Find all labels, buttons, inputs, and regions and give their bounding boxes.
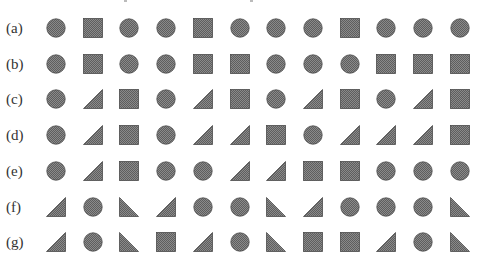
square-shape	[413, 54, 433, 74]
triangle-right-shape	[376, 232, 396, 252]
circle-shape	[156, 89, 176, 109]
square-shape	[450, 89, 470, 109]
circle-shape	[340, 197, 360, 217]
square-shape	[450, 54, 470, 74]
square-shape	[450, 125, 470, 145]
shape-sequence-figure: (a)(b)(c)(d)(e)(f)(g)	[0, 0, 483, 257]
triangle-right-shape	[230, 125, 250, 145]
triangle-right-shape	[413, 125, 433, 145]
triangle-right-shape	[46, 197, 66, 217]
triangle-right-shape	[193, 89, 213, 109]
circle-shape	[230, 18, 250, 38]
triangle-left-shape	[450, 232, 470, 252]
square-shape	[230, 89, 250, 109]
row-label: (a)	[6, 19, 32, 37]
circle-shape	[266, 54, 286, 74]
triangle-right-shape	[376, 125, 396, 145]
row-label: (d)	[6, 126, 32, 144]
circle-shape	[193, 197, 213, 217]
circle-shape	[303, 54, 323, 74]
triangle-right-shape	[193, 125, 213, 145]
square-shape	[83, 54, 103, 74]
triangle-left-shape	[450, 197, 470, 217]
triangle-right-shape	[156, 197, 176, 217]
row-label: (c)	[6, 90, 32, 108]
triangle-right-shape	[266, 161, 286, 181]
circle-shape	[266, 18, 286, 38]
circle-shape	[46, 54, 66, 74]
square-shape	[376, 54, 396, 74]
circle-shape	[156, 18, 176, 38]
circle-shape	[376, 18, 396, 38]
circle-shape	[46, 125, 66, 145]
circle-shape	[376, 161, 396, 181]
circle-shape	[413, 18, 433, 38]
triangle-right-shape	[303, 197, 323, 217]
circle-shape	[376, 197, 396, 217]
circle-shape	[266, 89, 286, 109]
triangle-right-shape	[413, 89, 433, 109]
triangle-right-shape	[83, 89, 103, 109]
circle-shape	[156, 54, 176, 74]
square-shape	[119, 161, 139, 181]
triangle-right-shape	[83, 125, 103, 145]
square-shape	[119, 89, 139, 109]
row-label: (b)	[6, 55, 32, 73]
circle-shape	[340, 54, 360, 74]
circle-shape	[376, 89, 396, 109]
circle-shape	[230, 197, 250, 217]
triangle-left-shape	[266, 197, 286, 217]
square-shape	[303, 232, 323, 252]
triangle-left-shape	[119, 232, 139, 252]
circle-shape	[303, 125, 323, 145]
circle-shape	[46, 89, 66, 109]
square-shape	[340, 232, 360, 252]
circle-shape	[119, 54, 139, 74]
triangle-right-shape	[193, 232, 213, 252]
circle-shape	[413, 232, 433, 252]
cropped-text-remnant	[124, 0, 127, 2]
square-shape	[230, 54, 250, 74]
row-label: (g)	[6, 233, 32, 251]
cropped-text-remnant	[250, 0, 253, 2]
triangle-left-shape	[266, 232, 286, 252]
circle-shape	[413, 197, 433, 217]
circle-shape	[46, 18, 66, 38]
circle-shape	[450, 161, 470, 181]
square-shape	[193, 18, 213, 38]
triangle-right-shape	[83, 161, 103, 181]
circle-shape	[413, 161, 433, 181]
row-label: (e)	[6, 162, 32, 180]
triangle-right-shape	[303, 89, 323, 109]
circle-shape	[230, 232, 250, 252]
circle-shape	[156, 161, 176, 181]
square-shape	[340, 89, 360, 109]
triangle-right-shape	[340, 125, 360, 145]
circle-shape	[46, 161, 66, 181]
circle-shape	[83, 232, 103, 252]
square-shape	[193, 54, 213, 74]
circle-shape	[156, 125, 176, 145]
square-shape	[303, 161, 323, 181]
square-shape	[266, 125, 286, 145]
square-shape	[119, 125, 139, 145]
circle-shape	[83, 197, 103, 217]
square-shape	[156, 232, 176, 252]
square-shape	[340, 18, 360, 38]
triangle-right-shape	[46, 232, 66, 252]
row-label: (f)	[6, 198, 32, 216]
triangle-left-shape	[119, 197, 139, 217]
square-shape	[83, 18, 103, 38]
square-shape	[340, 161, 360, 181]
circle-shape	[450, 18, 470, 38]
circle-shape	[119, 18, 139, 38]
triangle-right-shape	[230, 161, 250, 181]
circle-shape	[193, 161, 213, 181]
circle-shape	[303, 18, 323, 38]
